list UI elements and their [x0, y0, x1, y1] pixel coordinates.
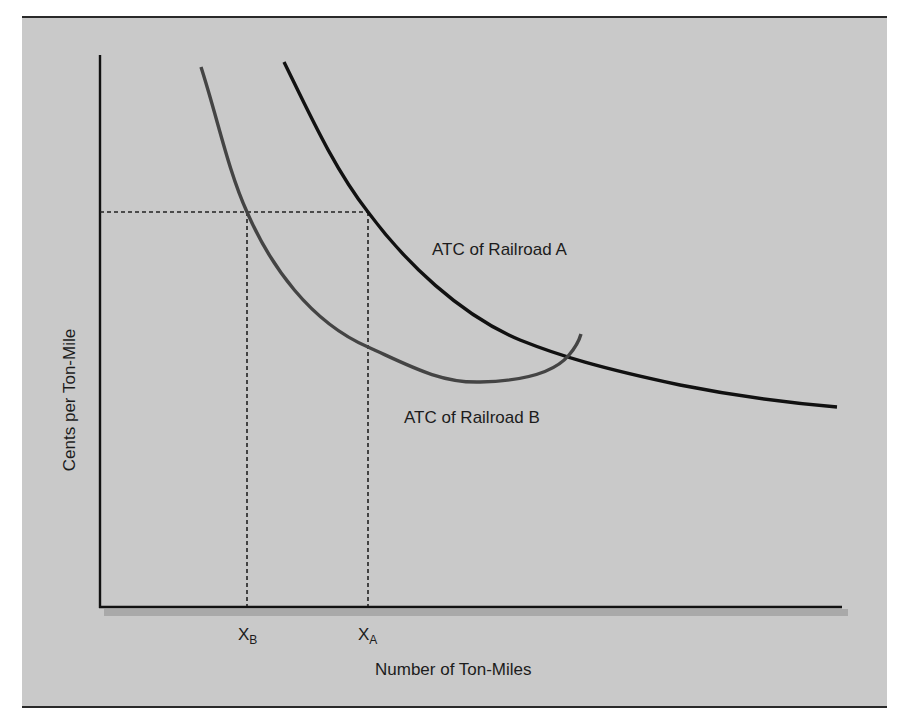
- atc-railroad-b-curve: [201, 67, 581, 382]
- tick-xa: XA: [358, 626, 377, 646]
- x-axis-shadow: [104, 609, 848, 616]
- curve-a-label: ATC of Railroad A: [432, 241, 567, 258]
- x-axis-label: Number of Ton-Miles: [375, 661, 532, 678]
- tick-xb-sub: B: [249, 633, 257, 647]
- cost-curve-diagram: [0, 0, 902, 728]
- y-axis-label: Cents per Ton-Mile: [60, 329, 80, 471]
- tick-xa-main: X: [358, 625, 369, 644]
- curve-b-label: ATC of Railroad B: [404, 409, 540, 426]
- tick-xb: XB: [238, 626, 257, 646]
- tick-xa-sub: A: [369, 633, 377, 647]
- tick-xb-main: X: [238, 625, 249, 644]
- atc-railroad-a-curve: [284, 62, 837, 407]
